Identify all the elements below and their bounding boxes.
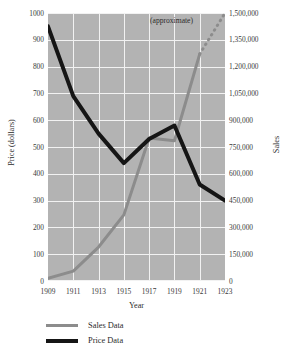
legend-item-price-data: Price Data — [46, 333, 226, 348]
x-tick: 1911 — [66, 287, 81, 296]
legend-label: Sales Data — [88, 321, 124, 330]
x-tick: 1909 — [41, 287, 56, 296]
x-axis-title: Year — [48, 301, 225, 310]
y-axis-left-title: Price (dollars) — [7, 108, 16, 178]
legend-label: Price Data — [88, 336, 123, 345]
x-tick: 1923 — [218, 287, 233, 296]
legend-swatch-price-icon — [46, 339, 78, 343]
x-tick: 1919 — [167, 287, 182, 296]
chart-figure: (approximate) 1000 900 800 700 600 500 4… — [0, 0, 294, 357]
y-axis-right-title: Sales — [272, 125, 281, 165]
chart-legend: Sales Data Price Data — [46, 318, 226, 348]
x-tick: 1915 — [117, 287, 132, 296]
legend-item-sales-data: Sales Data — [46, 318, 226, 333]
legend-swatch-sales-icon — [46, 324, 78, 327]
x-tick: 1913 — [91, 287, 106, 296]
x-tick: 1921 — [192, 287, 207, 296]
x-tick: 1917 — [142, 287, 157, 296]
